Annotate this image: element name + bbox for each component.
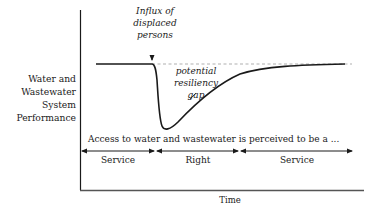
phase-label-service-1: Service (82, 155, 154, 165)
x-axis-label: Time (200, 195, 260, 205)
access-statement: Access to water and wastewater is percei… (88, 134, 339, 144)
gap-annotation-line: potential (163, 65, 229, 77)
resiliency-gap-annotation: potential resiliency gap (163, 65, 229, 101)
y-axis-label: Water and Wastewater System Performance (16, 72, 76, 124)
phase-label-service-2: Service (241, 155, 353, 165)
gap-annotation-line: gap (163, 89, 229, 101)
y-axis-label-line: Wastewater (16, 85, 76, 98)
y-axis-label-line: Performance (16, 111, 76, 124)
gap-annotation-line: resiliency (163, 77, 229, 89)
event-annotation-line: displaced (118, 17, 192, 29)
phase-label-right: Right (157, 155, 239, 165)
y-axis-label-line: System (16, 98, 76, 111)
y-axis-label-line: Water and (16, 72, 76, 85)
event-annotation-line: Influx of (118, 5, 192, 17)
event-annotation-line: persons (118, 29, 192, 41)
event-annotation: Influx of displaced persons (118, 5, 192, 41)
